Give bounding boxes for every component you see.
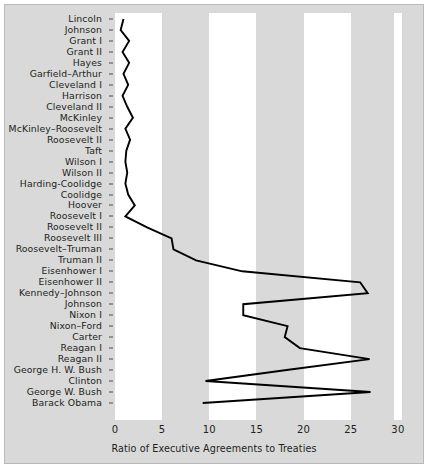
y-axis-label: Cleveland II (46, 102, 102, 111)
y-axis-label: Roosevelt III (44, 234, 102, 243)
y-axis-label: Coolidge (61, 190, 102, 199)
y-axis-label: Reagan II (58, 354, 102, 363)
y-axis-label: Nixon–Ford (50, 322, 102, 331)
y-axis-label: Carter (72, 332, 102, 341)
x-axis-tick-label: 10 (203, 424, 216, 435)
y-axis-label: Hoover (68, 201, 102, 210)
y-axis-tick (109, 95, 113, 96)
y-axis-tick (109, 227, 113, 228)
y-axis-label: Eisenhower II (39, 278, 102, 287)
y-axis-label: Wilson I (65, 157, 102, 166)
y-axis-label: Nixon I (69, 311, 102, 320)
y-axis-label: Lincoln (68, 14, 102, 23)
chart-figure: LincolnJohnsonGrant IGrant IIHayesGarfie… (0, 0, 428, 468)
y-axis-label: Grant I (69, 36, 102, 45)
y-axis-tick (109, 348, 113, 349)
y-axis-label: Cleveland I (49, 80, 102, 89)
ratio-series-polyline (121, 19, 371, 403)
y-axis-label: Harding-Coolidge (20, 179, 102, 188)
y-axis-tick (109, 139, 113, 140)
x-axis-tick-label: 20 (297, 424, 310, 435)
y-axis-tick (109, 359, 113, 360)
y-axis-tick (109, 40, 113, 41)
y-axis-label: George W. Bush (27, 387, 102, 396)
y-axis-label: George H. W. Bush (14, 365, 102, 374)
y-axis-category-labels: LincolnJohnsonGrant IGrant IIHayesGarfie… (0, 0, 110, 468)
y-axis-tick (109, 183, 113, 184)
y-axis-label: Roosevelt–Truman (16, 245, 102, 254)
y-axis-tick (109, 370, 113, 371)
x-axis-tick-label: 5 (159, 424, 166, 435)
y-axis-tick (109, 106, 113, 107)
y-axis-tick (109, 402, 113, 403)
y-axis-label: Barack Obama (32, 398, 102, 407)
y-axis-tick (109, 326, 113, 327)
x-axis-tick-label: 30 (391, 424, 404, 435)
y-axis-tick (109, 161, 113, 162)
y-axis-tick (109, 128, 113, 129)
y-axis-tick (109, 84, 113, 85)
x-axis-tick-label: 25 (344, 424, 357, 435)
x-axis-tick-labels: 051015202530 (0, 424, 428, 440)
x-axis-tick-label: 0 (112, 424, 119, 435)
y-axis-label: Hayes (73, 58, 102, 67)
y-axis-label: Johnson (65, 25, 102, 34)
y-axis-label: Harrison (62, 91, 102, 100)
y-axis-tick (109, 315, 113, 316)
y-axis-tick (109, 216, 113, 217)
y-axis-tick (109, 205, 113, 206)
y-axis-tick (109, 150, 113, 151)
y-axis-label: Wilson II (62, 168, 102, 177)
y-axis-tick (109, 62, 113, 63)
y-axis-label: Reagan I (61, 343, 102, 352)
y-axis-tick (109, 293, 113, 294)
y-axis-label: Taft (85, 146, 102, 155)
y-axis-tick (109, 238, 113, 239)
y-axis-tick (109, 381, 113, 382)
y-axis-tick (109, 271, 113, 272)
y-axis-label: McKinley (60, 113, 102, 122)
y-axis-tick (109, 19, 113, 20)
y-axis-label: Kennedy–Johnson (19, 289, 102, 298)
y-axis-tick (109, 51, 113, 52)
y-axis-label: Johnson (65, 300, 102, 309)
y-axis-tick (109, 391, 113, 392)
y-axis-tick (109, 337, 113, 338)
y-axis-label: Truman II (58, 256, 102, 265)
y-axis-tick (109, 194, 113, 195)
y-axis-tick (109, 117, 113, 118)
y-axis-label: Roosevelt II (47, 135, 102, 144)
x-axis-title: Ratio of Executive Agreements to Treatie… (0, 443, 428, 454)
y-axis-label: Eisenhower I (41, 267, 102, 276)
y-axis-label: Roosevelt II (47, 223, 102, 232)
y-axis-tick (109, 304, 113, 305)
y-axis-tick (109, 73, 113, 74)
y-axis-label: Clinton (69, 376, 102, 385)
y-axis-label: Roosevelt I (50, 212, 102, 221)
plot-area (115, 13, 409, 420)
y-axis-label: Grant II (67, 47, 103, 56)
x-axis-tick-label: 15 (250, 424, 263, 435)
y-axis-label: Garfield–Arthur (30, 69, 102, 78)
y-axis-tick (109, 29, 113, 30)
y-axis-label: McKinley–Roosevelt (9, 124, 102, 133)
y-axis-tick (109, 260, 113, 261)
y-axis-tick (109, 172, 113, 173)
y-axis-tick (109, 249, 113, 250)
y-axis-tick (109, 282, 113, 283)
series-line (115, 13, 409, 420)
